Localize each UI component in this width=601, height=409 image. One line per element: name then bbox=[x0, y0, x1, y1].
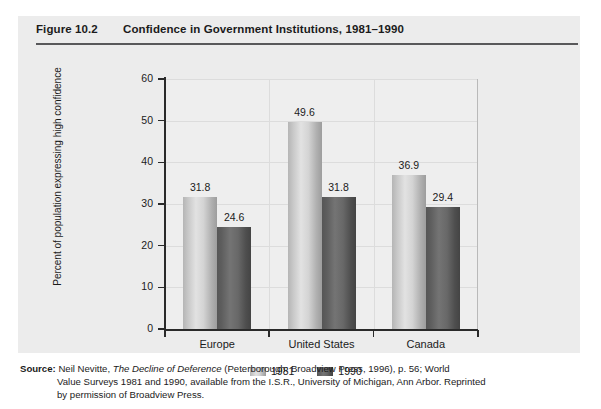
y-axis-line bbox=[164, 77, 166, 330]
bar-value-label: 36.9 bbox=[379, 159, 439, 171]
x-axis-label-united-states: United States bbox=[262, 338, 382, 350]
x-axis-line bbox=[164, 329, 478, 331]
x-axis-label-canada: Canada bbox=[366, 338, 486, 350]
bar-value-label: 31.8 bbox=[170, 181, 230, 193]
bar-value-label: 29.4 bbox=[413, 191, 473, 203]
y-tick-label: 60 bbox=[119, 72, 153, 84]
source-line1-post: (Peterborough: Broadview Press, 1996), p… bbox=[222, 363, 450, 374]
figure-panel: Figure 10.2 Confidence in Government Ins… bbox=[18, 16, 580, 353]
source-line3: by permission of Broadview Press. bbox=[20, 388, 586, 401]
source-line2: Value Surveys 1981 and 1990, available f… bbox=[20, 375, 586, 388]
y-tick-mark bbox=[158, 203, 164, 205]
bar-value-label: 31.8 bbox=[309, 181, 369, 193]
x-separator-tick bbox=[373, 330, 375, 337]
y-tick-mark bbox=[158, 78, 164, 80]
x-axis-label-europe: Europe bbox=[157, 338, 277, 350]
y-axis-title: Percent of population expressing high co… bbox=[52, 52, 63, 302]
source-line1-pre: Neil Nevitte, bbox=[58, 363, 112, 374]
y-tick-label: 20 bbox=[119, 239, 153, 251]
source-book-title: The Decline of Deference bbox=[113, 363, 222, 374]
plot-right-border bbox=[477, 79, 478, 330]
chart-plot: Percent of population expressing high co… bbox=[18, 46, 580, 353]
bar-united-states-1981 bbox=[288, 122, 322, 329]
y-tick-mark bbox=[158, 162, 164, 164]
vertical-gridline bbox=[269, 79, 270, 329]
figure-header: Figure 10.2 Confidence in Government Ins… bbox=[18, 16, 580, 46]
header-divider bbox=[36, 43, 578, 45]
figure-title: Confidence in Government Institutions, 1… bbox=[123, 23, 404, 35]
bar-value-label: 24.6 bbox=[204, 211, 264, 223]
y-tick-mark bbox=[158, 287, 164, 289]
source-label: Source: bbox=[20, 363, 56, 374]
y-tick-label: 10 bbox=[119, 280, 153, 292]
y-tick-label: 50 bbox=[119, 114, 153, 126]
bar-europe-1990 bbox=[217, 227, 251, 330]
bar-united-states-1990 bbox=[322, 197, 356, 330]
x-separator-tick bbox=[164, 330, 166, 337]
y-tick-label: 30 bbox=[119, 197, 153, 209]
vertical-gridline bbox=[374, 79, 375, 329]
y-tick-label: 0 bbox=[119, 322, 153, 334]
x-separator-tick bbox=[477, 330, 479, 337]
source-note: Source: Neil Nevitte, The Decline of Def… bbox=[20, 362, 586, 401]
gridline bbox=[165, 79, 478, 80]
x-separator-tick bbox=[268, 330, 270, 337]
y-tick-label: 40 bbox=[119, 155, 153, 167]
bar-canada-1990 bbox=[426, 207, 460, 330]
figure-number: Figure 10.2 bbox=[36, 23, 98, 35]
y-tick-mark bbox=[158, 120, 164, 122]
bar-value-label: 49.6 bbox=[275, 106, 335, 118]
gridline bbox=[165, 121, 478, 122]
y-tick-mark bbox=[158, 245, 164, 247]
source-text: Neil Nevitte, The Decline of Deference (… bbox=[20, 363, 586, 401]
